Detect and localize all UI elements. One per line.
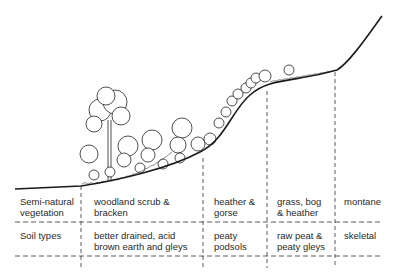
row-label-line2: vegetation [20,207,74,218]
cell-line2: brown earth and gleys [94,241,187,252]
cell-line2: podsols [214,241,247,252]
row-label-line1: Soil types [20,230,61,241]
cell-line2: bracken [94,207,170,218]
soil-montane: skeletal [344,230,376,241]
terrain-line [15,16,382,189]
row-label-vegetation: Semi-natural vegetation [20,196,74,218]
cell-line1: heather & [214,196,255,207]
row-label-soil: Soil types [20,230,61,241]
row-label-line1: Semi-natural [20,196,74,207]
vegetation-montane: montane [344,196,381,207]
row-dividers [15,222,382,256]
cell-line2: peaty gleys [277,241,325,252]
soil-heather: peaty podsols [214,230,247,252]
cell-line1: skeletal [344,230,376,241]
vegetation-heather: heather & gorse [214,196,255,218]
cell-line1: woodland scrub & [94,196,170,207]
soil-woodland: better drained, acid brown earth and gle… [94,230,187,252]
cell-line1: grass, bog [277,196,321,207]
cell-line1: raw peat & [277,230,325,241]
ground-texture [82,72,330,184]
soil-grass-bog: raw peat & peaty gleys [277,230,325,252]
cell-line1: montane [344,196,381,207]
vegetation-grass-bog: grass, bog & heather [277,196,321,218]
cell-line2: & heather [277,207,321,218]
cell-line2: gorse [214,207,255,218]
tree-icons [80,65,294,180]
vegetation-woodland: woodland scrub & bracken [94,196,170,218]
cell-line1: peaty [214,230,247,241]
cell-line1: better drained, acid [94,230,187,241]
